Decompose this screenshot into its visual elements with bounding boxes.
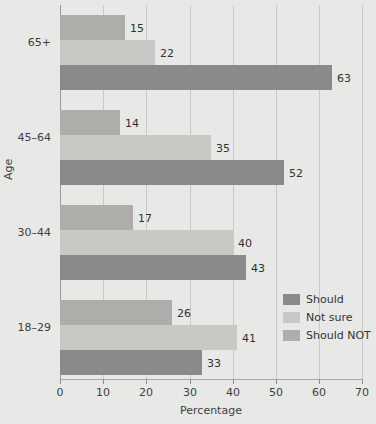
gridline-30 [190,5,191,379]
x-tick-label-40: 40 [226,386,240,399]
x-tick-60 [319,379,320,384]
x-tick-label-50: 50 [269,386,283,399]
x-tick-50 [276,379,277,384]
y-label-45-64: 45–64 [18,131,52,144]
bar-65plus-not-sure [60,40,155,65]
bar-label-18-29-not-sure: 41 [242,332,256,345]
y-label-30-44: 30–44 [18,226,52,239]
x-tick-label-30: 30 [183,386,197,399]
bar-chart: 15 22 63 14 35 52 17 40 43 26 41 33 0 [0,0,376,424]
legend-item-not-sure[interactable]: Not sure [283,309,375,326]
x-axis-line [60,379,363,380]
x-tick-label-60: 60 [312,386,326,399]
bar-30-44-should-not [60,205,133,230]
x-tick-30 [190,379,191,384]
bar-45-64-not-sure [60,135,211,160]
x-tick-20 [146,379,147,384]
y-label-65plus: 65+ [28,36,51,49]
x-tick-label-0: 0 [57,386,64,399]
bar-18-29-should [60,350,202,375]
legend-swatch-should-not [283,330,300,341]
legend-item-should-not[interactable]: Should NOT [283,327,375,344]
bar-18-29-should-not [60,300,172,325]
legend-swatch-should [283,294,300,305]
bar-label-30-44-not-sure: 40 [238,237,252,250]
y-axis-labels: 65+ 45–64 30–44 18–29 [0,0,55,424]
legend-label-should: Should [306,293,344,306]
bar-30-44-not-sure [60,230,233,255]
bar-label-30-44-should: 43 [251,262,265,275]
legend-label-should-not: Should NOT [306,329,371,342]
x-tick-40 [233,379,234,384]
x-axis-title: Percentage [0,404,376,417]
x-tick-10 [103,379,104,384]
bar-30-44-should [60,255,246,280]
bar-label-65plus-should-not: 15 [130,22,144,35]
bar-label-45-64-not-sure: 35 [216,142,230,155]
gridline-50 [276,5,277,379]
bar-label-65plus-not-sure: 22 [160,47,174,60]
bar-45-64-should-not [60,110,120,135]
bar-label-45-64-should: 52 [289,167,303,180]
bar-65plus-should [60,65,332,90]
legend-item-should[interactable]: Should [283,291,375,308]
bar-label-65plus-should: 63 [337,72,351,85]
x-tick-label-10: 10 [96,386,110,399]
bar-65plus-should-not [60,15,125,40]
x-tick-0 [60,379,61,384]
bar-45-64-should [60,160,284,185]
bar-label-45-64-should-not: 14 [125,117,139,130]
y-label-18-29: 18–29 [18,321,52,334]
x-tick-70 [362,379,363,384]
bar-label-18-29-should-not: 26 [177,307,191,320]
x-axis-title-text: Percentage [180,404,242,417]
bar-18-29-not-sure [60,325,237,350]
bar-label-30-44-should-not: 17 [138,212,152,225]
legend-label-not-sure: Not sure [306,311,353,324]
gridline-40 [233,5,234,379]
legend: Should Not sure Should NOT [283,291,375,345]
bar-label-18-29-should: 33 [207,357,221,370]
x-tick-label-70: 70 [355,386,369,399]
legend-swatch-not-sure [283,312,300,323]
x-tick-label-20: 20 [139,386,153,399]
